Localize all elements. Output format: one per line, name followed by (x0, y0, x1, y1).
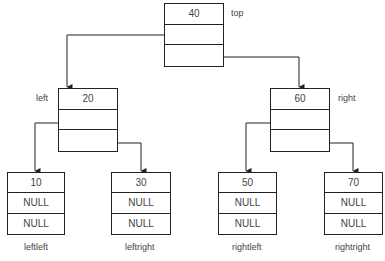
left-pointer-cell: NULL (325, 193, 382, 213)
node-label-left: left (36, 93, 48, 103)
left-pointer-cell: NULL (112, 193, 170, 213)
node-label-rightleft: rightleft (232, 242, 262, 252)
node-top: 40 (164, 3, 224, 67)
node-rightright: 70 NULL NULL (324, 172, 383, 235)
node-label-right: right (338, 93, 356, 103)
node-rightleft: 50 NULL NULL (218, 172, 277, 235)
right-pointer-cell: NULL (112, 214, 170, 234)
node-label-rightright: rightright (335, 242, 370, 252)
node-value: 50 (219, 173, 276, 193)
right-pointer-cell: NULL (219, 214, 276, 234)
left-pointer-cell: NULL (8, 193, 64, 213)
right-pointer-cell: NULL (8, 214, 64, 234)
right-pointer-cell (271, 130, 329, 151)
left-pointer-cell (271, 110, 329, 131)
right-pointer-cell (59, 130, 117, 151)
left-pointer-cell (165, 25, 223, 46)
node-label-leftleft: leftleft (24, 242, 48, 252)
node-value: 30 (112, 173, 170, 193)
right-pointer-cell (165, 45, 223, 66)
left-pointer-cell (59, 110, 117, 131)
node-value: 10 (8, 173, 64, 193)
node-label-leftright: leftright (125, 242, 155, 252)
right-pointer-cell: NULL (325, 214, 382, 234)
node-value: 70 (325, 173, 382, 193)
node-value: 60 (271, 89, 329, 110)
node-leftleft: 10 NULL NULL (7, 172, 65, 235)
node-label-top: top (231, 8, 244, 18)
node-value: 40 (165, 4, 223, 25)
node-right: 60 (270, 88, 330, 152)
node-left: 20 (58, 88, 118, 152)
node-leftright: 30 NULL NULL (111, 172, 171, 235)
left-pointer-cell: NULL (219, 193, 276, 213)
node-value: 20 (59, 89, 117, 110)
